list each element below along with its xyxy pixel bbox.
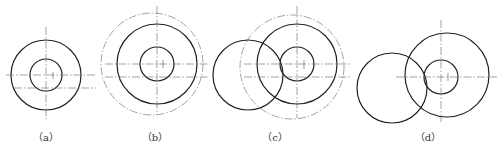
tangent-circle — [213, 40, 283, 110]
outer-circle — [405, 33, 489, 117]
diagram-canvas: .solid { fill: none; stroke: #222; strok… — [0, 0, 498, 147]
figure-label-b: （b） — [142, 129, 168, 144]
figure-a — [6, 27, 96, 120]
circle-diagrams: .solid { fill: none; stroke: #222; strok… — [0, 0, 498, 147]
figure-d — [357, 20, 497, 123]
figure-label-d: （d） — [415, 129, 441, 144]
figure-c — [213, 6, 350, 119]
figure-label-c: （c） — [262, 129, 288, 144]
figure-label-a: （a） — [33, 129, 59, 144]
figure-b — [101, 6, 208, 115]
tangent-circle — [357, 53, 427, 123]
